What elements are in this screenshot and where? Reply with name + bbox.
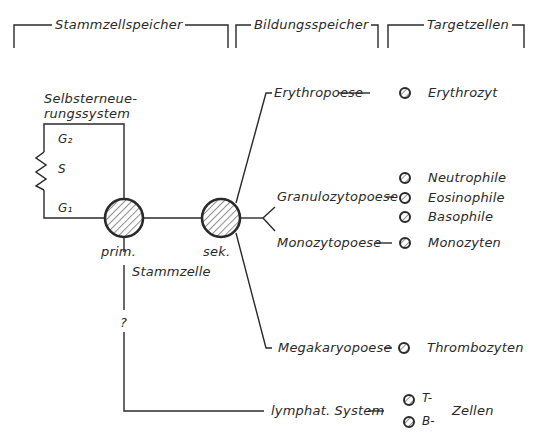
process-megakaryopoese: Megakaryopoese: [278, 340, 392, 355]
cell-icon-neutrophile: [400, 173, 410, 183]
cell-eosinophile: Eosinophile: [428, 190, 505, 205]
primary-label: prim.: [101, 244, 136, 259]
process-lymphatic-system: lymphat. System: [271, 403, 384, 418]
cell-neutrophile: Neutrophile: [428, 170, 506, 185]
phase-s-label: S: [58, 162, 66, 177]
header-bildungsspeicher: Bildungsspeicher: [251, 17, 371, 32]
header-stammzellspeicher: Stammzellspeicher: [52, 17, 185, 32]
cell-erythrozyt: Erythrozyt: [428, 85, 498, 100]
cell-basophile: Basophile: [428, 209, 493, 224]
unknown-marker: ?: [120, 315, 127, 330]
secondary-label: sek.: [203, 244, 230, 259]
self-renewal-title-line1: Selbsterneue-: [44, 91, 137, 106]
phase-g2-label: G₂: [58, 132, 73, 147]
cell-icon-thrombozyten: [399, 343, 409, 353]
primary-stem-cell: [105, 199, 143, 237]
cell-thrombozyten: Thrombozyten: [427, 340, 524, 355]
secondary-stem-cell: [202, 199, 240, 237]
cell-icon-basophile: [400, 212, 410, 222]
process-granulozytopoese: Granulozytopoese: [277, 189, 398, 204]
cell-b-prefix: B-: [422, 414, 435, 429]
cell-icon-monozyten: [400, 238, 410, 248]
phase-g1-label: G₁: [58, 201, 73, 216]
cell-icon-t-cells: [404, 395, 414, 405]
process-monozytopoese: Monozytopoese: [277, 235, 382, 250]
cell-icon-eosinophile: [400, 193, 410, 203]
self-renewal-title-line2: rungssystem: [44, 106, 130, 121]
stem-cell-label: Stammzelle: [132, 264, 211, 279]
cell-monozyten: Monozyten: [428, 235, 501, 250]
process-erythropoese: Erythropoese: [274, 85, 363, 100]
header-targetzellen: Targetzellen: [424, 17, 512, 32]
cell-icon-b-cells: [404, 417, 414, 427]
cell-t-prefix: T-: [422, 391, 432, 406]
cell-icon-erythrozyt: [400, 88, 410, 98]
cell-zellen-suffix: Zellen: [452, 403, 494, 418]
